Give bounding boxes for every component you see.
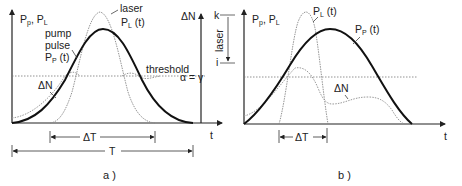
laser-label-line2: PL (t) — [121, 16, 145, 29]
delta-n-axis-label: ΔN — [181, 10, 196, 22]
laser-leader-line-b — [313, 17, 318, 22]
laser-label-b: PL (t) — [313, 5, 337, 18]
pump-leader-line — [72, 50, 77, 58]
panel-b: Pp, PL PL (t) PP (t) ΔN t ΔT b ) — [244, 5, 447, 181]
delta-t-label-a: ΔT — [83, 131, 97, 143]
pump-label-line3: PP (t) — [45, 51, 70, 64]
i-label: i — [216, 56, 218, 68]
laser-pulse-curve-b — [279, 12, 328, 124]
delta-n-label-b: ΔN — [334, 82, 349, 94]
caption-a: a ) — [103, 169, 116, 181]
delta-n-curve-b — [244, 68, 404, 124]
T-label: T — [109, 145, 116, 157]
caption-b: b ) — [338, 169, 351, 181]
delta-n-curve-a — [12, 72, 160, 118]
delta-t-label-b: ΔT — [295, 131, 309, 143]
laser-transition-label: laser — [213, 29, 225, 52]
delta-n-leader-line-b — [345, 95, 348, 99]
panel-a: Pp, PL pump pulse PP (t) laser PL (t) ΔN… — [12, 2, 235, 181]
t-label-a: t — [210, 129, 213, 141]
pump-label-b: PP (t) — [355, 23, 380, 36]
y-axis-label-a: Pp, PL — [20, 13, 48, 27]
pump-pulse-curve-b — [244, 29, 412, 124]
laser-leader-line — [111, 10, 118, 14]
y-axis-label-b: Pp, PL — [252, 13, 280, 27]
laser-pulse-diagram: Pp, PL pump pulse PP (t) laser PL (t) ΔN… — [0, 0, 462, 186]
k-label: k — [214, 9, 220, 21]
delta-n-label-a: ΔN — [38, 79, 53, 91]
laser-label-line1: laser — [120, 2, 143, 14]
pump-label-line1: pump — [45, 27, 71, 39]
pump-label-line2: pulse — [45, 39, 70, 51]
t-label-b: t — [444, 130, 447, 142]
